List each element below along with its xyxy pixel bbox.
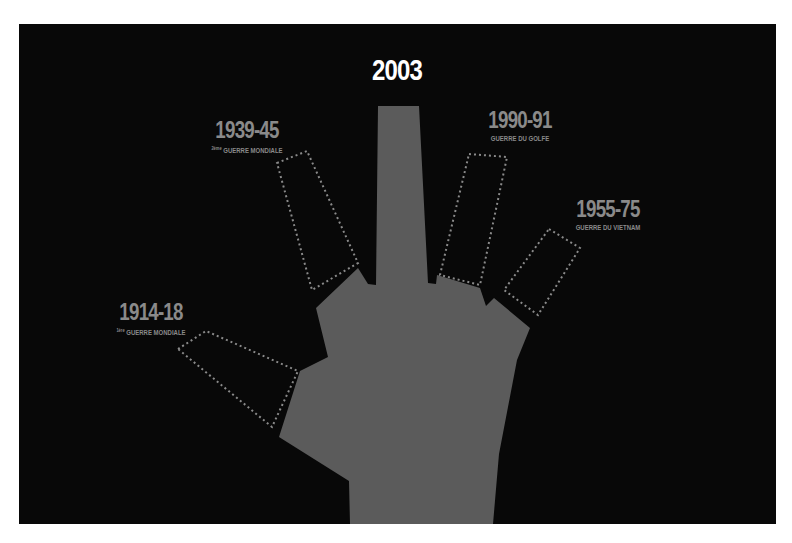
thumb-outline bbox=[178, 331, 298, 427]
index-finger-caption: 2ème GUERRE MONDIALE bbox=[203, 144, 291, 155]
ring-finger-caption: GUERRE DU GOLFE bbox=[480, 134, 560, 143]
index-finger-year: 1939-45 bbox=[204, 118, 290, 142]
highlight-year-label: 2003 bbox=[349, 53, 445, 87]
thumb-caption-text: GUERRE MONDIALE bbox=[126, 328, 185, 337]
index-finger-outline bbox=[277, 151, 358, 290]
thumb-label: 1914-18 1ère GUERRE MONDIALE bbox=[96, 300, 206, 337]
index-finger-label: 1939-45 2ème GUERRE MONDIALE bbox=[192, 118, 302, 155]
thumb-year: 1914-18 bbox=[108, 300, 194, 324]
pinky-year: 1955-75 bbox=[565, 197, 651, 221]
pinky-outline bbox=[504, 229, 580, 315]
ring-finger-year: 1990-91 bbox=[481, 108, 559, 132]
index-finger-ordinal: 2ème bbox=[211, 145, 221, 151]
index-finger-caption-text: GUERRE MONDIALE bbox=[223, 146, 282, 155]
thumb-caption: 1ère GUERRE MONDIALE bbox=[107, 326, 195, 337]
pinky-caption: GUERRE DU VIETNAM bbox=[564, 223, 652, 232]
ring-finger-label: 1990-91 GUERRE DU GOLFE bbox=[470, 108, 570, 143]
pinky-label: 1955-75 GUERRE DU VIETNAM bbox=[553, 197, 663, 232]
thumb-ordinal: 1ère bbox=[116, 327, 124, 333]
hand-shape bbox=[279, 106, 530, 524]
ring-finger-outline bbox=[440, 154, 507, 285]
